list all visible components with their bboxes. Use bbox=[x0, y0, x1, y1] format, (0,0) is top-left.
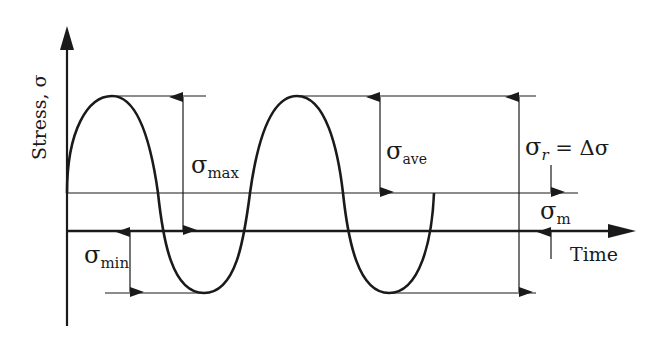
x-axis-arrow-icon bbox=[608, 224, 636, 238]
sigma-min-label: σmin bbox=[84, 241, 129, 272]
sigma-max-label: σmax bbox=[191, 151, 240, 182]
stress-time-diagram: Stress, σ Time σmax σmin σave σr = Δσ σm bbox=[0, 0, 662, 339]
sigma-r-label: σr = Δσ bbox=[525, 133, 609, 164]
sigma-m-label: σm bbox=[540, 197, 571, 228]
y-axis-label: Stress, σ bbox=[28, 74, 50, 160]
x-axis-label: Time bbox=[570, 243, 618, 265]
sigma-ave-label: σave bbox=[386, 137, 427, 167]
y-axis-arrow-icon bbox=[60, 26, 74, 50]
